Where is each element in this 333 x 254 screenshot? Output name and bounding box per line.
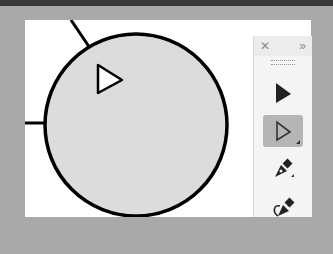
tools-panel: ✕ »	[253, 36, 312, 217]
pen-icon	[271, 157, 295, 181]
top-bar	[0, 0, 333, 6]
panel-header: ✕ »	[254, 36, 312, 56]
selection-arrow-icon	[273, 81, 293, 105]
panel-grip-handle[interactable]	[271, 60, 295, 65]
direct-selection-tool-button[interactable]	[263, 115, 303, 147]
close-icon[interactable]: ✕	[260, 39, 270, 53]
curvature-tool-button[interactable]	[263, 191, 303, 223]
pen-tool-button[interactable]	[263, 153, 303, 185]
curvature-pen-icon	[270, 194, 296, 220]
selection-tool-button[interactable]	[263, 77, 303, 109]
direct-selection-arrow-icon	[273, 119, 293, 143]
submenu-indicator-icon	[296, 140, 300, 144]
expand-icon[interactable]: »	[299, 39, 306, 53]
